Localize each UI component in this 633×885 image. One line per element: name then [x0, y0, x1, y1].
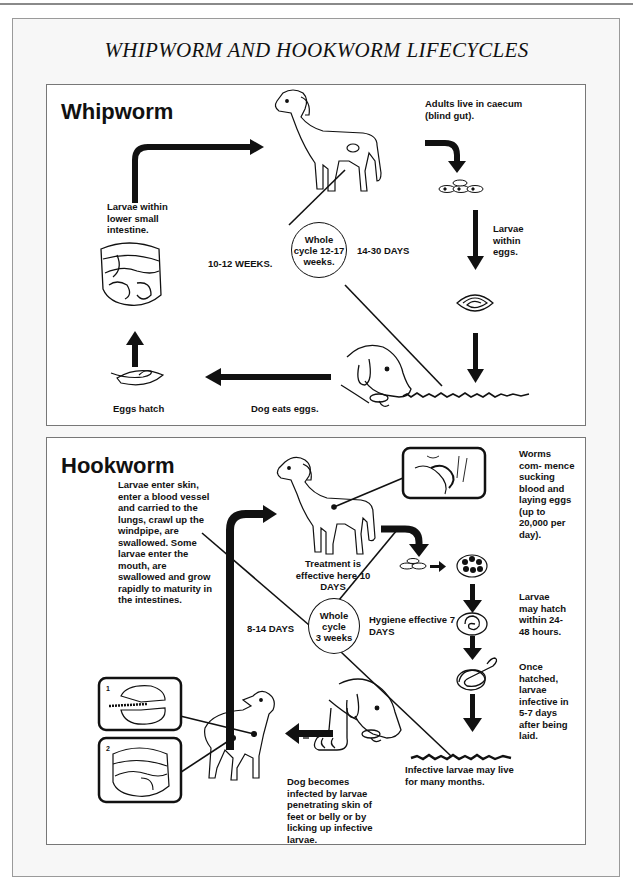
inset-lungs-icon: [99, 678, 181, 730]
egg-with-larva-icon: [457, 295, 493, 311]
hatched-larva-icon: [457, 658, 497, 690]
ground-line-icon: [403, 393, 529, 397]
stage-dog-infected: Dog becomes infected by larvae penetrati…: [287, 776, 383, 845]
adult-worms-icon: [400, 559, 426, 570]
inset-2-label: 2: [106, 743, 110, 755]
inset-1-label: 1: [106, 683, 110, 695]
page-title: WHIPWORM AND HOOKWORM LIFECYCLES: [0, 38, 633, 63]
arrow-to-eggs-icon: [381, 529, 429, 557]
ground-line-icon: [411, 755, 511, 759]
stage-larvae-hatch: Larvae may hatch within 24-48 hours.: [519, 591, 567, 637]
egg-hatching-icon: [111, 371, 163, 385]
whipworm-left-duration: 10-12 WEEKS.: [208, 258, 272, 270]
stage-larvae-infective: Once hatched, larvae infective in 5-7 da…: [519, 661, 569, 742]
inset-worm-attached-icon: [403, 448, 485, 498]
arrow-down-1-icon: [467, 210, 484, 270]
stage-adults: Adults live in caecum (blind gut).: [425, 98, 535, 121]
dog-feet-icon: [303, 708, 347, 750]
adult-worms-icon: [439, 180, 483, 193]
egg-cluster-icon: [457, 555, 487, 577]
dog-standing-icon: [277, 457, 375, 554]
stage-worms-feed: Worms com- mence sucking blood and layin…: [519, 448, 575, 540]
arrow-down-2-icon: [463, 636, 482, 660]
stage-larvae-intestine: Larvae within lower small intestine.: [107, 201, 179, 236]
arrow-right-small-icon: [430, 561, 446, 572]
hookworm-panel: Hookworm: [46, 437, 586, 845]
arrow-up-icon: [126, 331, 144, 367]
arrow-to-dog-icon: [135, 139, 264, 203]
dog-standing-bottom-icon: [205, 691, 275, 780]
arrow-down-2-icon: [467, 333, 484, 383]
dog-standing-icon: [275, 90, 381, 191]
arrow-down-1-icon: [463, 584, 482, 613]
stage-dog-eats-eggs: Dog eats eggs.: [251, 403, 319, 415]
inset-intestine-icon: [99, 738, 181, 802]
top-rule: [0, 3, 633, 5]
whipworm-panel: Whipworm: [46, 84, 586, 426]
stage-larvae-migration: Larvae enter skin, enter a blood vessel …: [118, 479, 212, 606]
dog-head-licking-icon: [341, 345, 411, 406]
hookworm-treatment-note: Treatment is effective here 10 DAYS: [295, 558, 371, 593]
arrow-left-icon: [285, 723, 333, 744]
stage-infective-larvae-live: Infective larvae may live for many month…: [405, 764, 527, 787]
whipworm-right-duration: 14-30 DAYS: [357, 245, 409, 257]
egg-coiled-larva-icon: [457, 613, 487, 635]
whipworm-cycle-circle: Whole cycle 12-17 weeks.: [291, 222, 347, 278]
intestine-icon: [101, 243, 161, 305]
dog-head-licking-icon: [329, 679, 401, 742]
stage-larvae-in-eggs: Larvae within eggs.: [493, 223, 533, 258]
arrow-to-eggs-icon: [425, 143, 466, 173]
hookworm-hygiene-note: Hygiene effective 7 DAYS: [369, 614, 459, 637]
hookworm-left-duration: 8-14 DAYS: [247, 623, 294, 635]
arrow-left-icon: [205, 368, 331, 386]
arrow-down-3-icon: [463, 694, 482, 732]
hookworm-cycle-circle: Whole cycle 3 weeks: [308, 598, 360, 654]
stage-eggs-hatch: Eggs hatch: [113, 403, 164, 415]
